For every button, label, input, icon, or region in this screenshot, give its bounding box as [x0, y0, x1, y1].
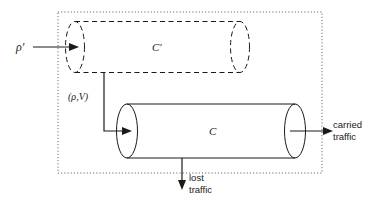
diagram-svg: C′ C ρ′ — [0, 0, 374, 206]
carried-traffic-label-line2: traffic — [333, 131, 356, 142]
lost-traffic-arrow-head — [178, 180, 186, 190]
lost-traffic-arrow — [178, 158, 186, 190]
lost-traffic-label-line2: traffic — [189, 184, 212, 195]
rho-v-label: (ρ,V) — [68, 91, 89, 103]
real-cylinder-label: C — [209, 125, 217, 137]
rho-v-arrow-shaft — [104, 73, 124, 131]
rho-prime-input-arrow — [33, 43, 79, 51]
system-boundary-rect — [58, 12, 322, 173]
carried-traffic-arrow — [290, 127, 333, 135]
virtual-cylinder-right-cap — [231, 22, 250, 73]
carried-traffic-arrow-head — [323, 127, 333, 135]
carried-traffic-label-line1: carried — [333, 119, 362, 130]
virtual-cylinder-group: C′ — [66, 22, 250, 73]
rho-v-arrow-head — [122, 127, 132, 135]
diagram-canvas: C′ C ρ′ — [0, 0, 374, 206]
virtual-cylinder-label: C′ — [152, 41, 162, 53]
rho-prime-label: ρ′ — [15, 40, 25, 54]
lost-traffic-label-line1: lost — [189, 172, 204, 183]
rho-prime-arrow-head — [69, 43, 79, 51]
real-cylinder-group: C — [117, 104, 306, 158]
